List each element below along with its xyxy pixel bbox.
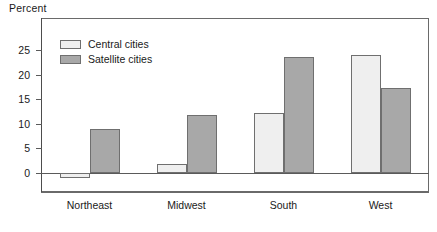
category-label-midwest: Midwest (167, 199, 206, 211)
legend-item-satellite: Satellite cities (60, 53, 152, 66)
category-label-northeast: Northeast (67, 199, 113, 211)
legend-swatch-satellite-icon (60, 55, 81, 64)
bar-south-central (254, 113, 284, 173)
bar-northeast-central (60, 173, 90, 178)
bar-northeast-satellite (90, 129, 120, 173)
bar-west-central (351, 55, 381, 173)
bar-west-satellite (381, 88, 411, 173)
y-tick-label: 25 (4, 45, 30, 55)
y-axis-title: Percent (9, 2, 47, 14)
legend: Central cities Satellite cities (60, 38, 152, 68)
bar-south-satellite (284, 57, 314, 173)
y-tick-label: 10 (4, 119, 30, 129)
category-axis-line (41, 192, 429, 193)
y-tick-label: 15 (4, 94, 30, 104)
y-tick-label: 20 (4, 70, 30, 80)
legend-swatch-central-icon (60, 40, 81, 49)
bar-midwest-satellite (187, 115, 217, 173)
legend-label-satellite: Satellite cities (88, 54, 152, 65)
category-label-west: West (369, 199, 393, 211)
legend-item-central: Central cities (60, 38, 152, 51)
bar-chart: Percent 0510152025 NortheastMidwestSouth… (0, 0, 437, 232)
legend-label-central: Central cities (88, 39, 149, 50)
y-tick-label: 5 (4, 143, 30, 153)
category-label-south: South (270, 199, 297, 211)
y-tick-label: 0 (4, 168, 30, 178)
bar-midwest-central (157, 164, 187, 173)
